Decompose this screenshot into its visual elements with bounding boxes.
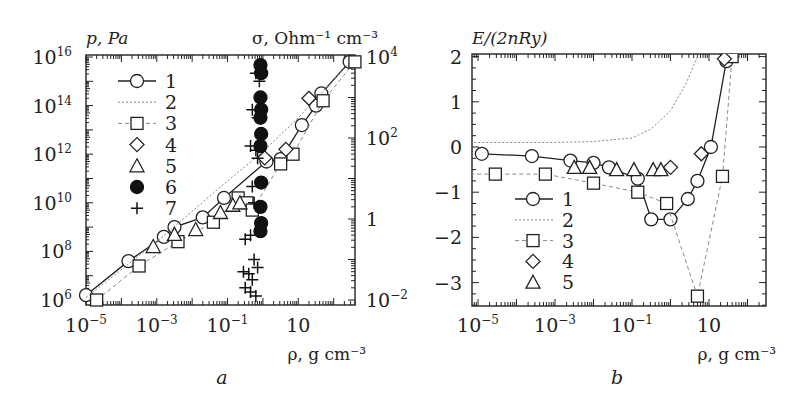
- y-axis-title: E/(2nRy): [471, 28, 547, 48]
- circle-marker: [681, 192, 694, 205]
- square-marker: [588, 177, 600, 189]
- x-tick-label: 10−1: [611, 313, 653, 336]
- y-right-tick-label: 104: [366, 45, 398, 68]
- square-marker: [661, 198, 673, 210]
- x-tick-label-base: 10: [65, 314, 89, 336]
- y-tick-label: 2: [450, 46, 462, 68]
- legend-marker: [526, 254, 540, 268]
- filled-circle-marker: [254, 91, 267, 104]
- y-left-tick-label: 108: [40, 239, 72, 262]
- legend-label: 4: [165, 134, 177, 156]
- legend-item: 5: [130, 155, 177, 177]
- legend-marker: [527, 193, 540, 206]
- y-left-tick-label: 1010: [33, 191, 72, 214]
- legend-item: 5: [526, 271, 574, 293]
- x-tick-label-exp: −1: [635, 313, 653, 327]
- square-marker: [539, 168, 551, 180]
- y-right-tick-label-exp: −2: [390, 288, 408, 302]
- y-left-tick-label-base: 10: [33, 143, 57, 165]
- square-marker: [91, 294, 103, 306]
- legend-item: 3: [515, 230, 574, 252]
- circle-marker: [475, 147, 488, 160]
- y-left-tick-label: 1012: [33, 142, 72, 165]
- square-marker: [691, 290, 703, 302]
- y-tick-label: −1: [434, 181, 462, 203]
- legend-marker: [131, 75, 144, 88]
- legend-label: 7: [165, 197, 177, 219]
- x-tick-label-base: 10: [286, 314, 310, 336]
- x-tick-label-exp: −3: [160, 313, 178, 327]
- legend-label: 6: [165, 176, 177, 198]
- x-tick-label-base: 10: [457, 314, 481, 336]
- legend-marker: [131, 202, 143, 214]
- y-right-tick-label: 102: [366, 126, 398, 149]
- y-tick-label: −2: [434, 226, 462, 248]
- legend-label: 1: [562, 188, 574, 210]
- y-right-tick-label-base: 10: [366, 127, 390, 149]
- y-left-tick-label: 1014: [33, 94, 73, 117]
- y-left-tick-label-exp: 16: [57, 45, 72, 59]
- series-5: [567, 160, 668, 175]
- y-left-tick-label-exp: 12: [57, 142, 72, 156]
- square-marker: [632, 186, 644, 198]
- y-left-tick-label: 106: [40, 288, 72, 311]
- y-left-tick-label-base: 10: [33, 95, 57, 117]
- y-right-tick-label: 1: [366, 208, 378, 230]
- series-5: [146, 196, 247, 253]
- x-axis-title: ρ, g cm⁻³: [287, 344, 366, 364]
- legend-item: 2: [118, 91, 177, 113]
- x-tick-label: 10−1: [207, 313, 249, 336]
- x-tick-label: 10−3: [136, 313, 178, 336]
- x-tick-label-base: 10: [611, 314, 635, 336]
- y-left-title: p, Pa: [86, 28, 129, 48]
- square-marker: [349, 56, 361, 68]
- legend-label: 4: [562, 250, 574, 272]
- legend-marker: [131, 181, 144, 194]
- x-tick-label-base: 10: [534, 314, 558, 336]
- legend-marker: [527, 235, 539, 247]
- x-tick-label: 10−5: [457, 313, 499, 336]
- x-tick-label-base: 10: [207, 314, 231, 336]
- legend-label: 5: [165, 155, 177, 177]
- y-left-tick-label-base: 10: [40, 240, 64, 262]
- legend: 12345: [515, 188, 574, 293]
- x-tick-label: 10: [697, 314, 721, 336]
- series-1: [80, 55, 357, 301]
- circle-marker: [525, 150, 538, 163]
- panel-b-chart: 10−510−310−110210−1−2−3E/(2nRy)ρ, g cm⁻³…: [434, 11, 776, 388]
- y-right-tick-label-base: 1: [366, 208, 378, 230]
- y-left-tick-label-base: 10: [40, 289, 64, 311]
- y-left-tick-label-exp: 14: [57, 94, 73, 108]
- square-marker: [275, 158, 287, 170]
- legend-item: 4: [130, 134, 177, 156]
- circle-marker: [295, 119, 308, 132]
- y-left-tick-label-exp: 6: [64, 288, 72, 302]
- legend-item: 1: [118, 70, 177, 92]
- x-axis-title: ρ, g cm⁻³: [697, 344, 776, 364]
- circle-marker: [645, 213, 658, 226]
- legend-marker: [130, 138, 144, 152]
- legend: 1234567: [118, 70, 177, 219]
- legend-label: 2: [165, 91, 177, 113]
- x-tick-label-base: 10: [136, 314, 160, 336]
- x-tick-label: 10−5: [65, 313, 107, 336]
- legend-marker: [526, 275, 540, 288]
- y-left-tick-label-exp: 8: [64, 239, 72, 253]
- y-left-tick-label-base: 10: [33, 192, 57, 214]
- y-right-title: σ, Ohm⁻¹ cm⁻³: [252, 28, 378, 48]
- figure: 10−510−310−11010161014101210101081061041…: [0, 0, 811, 399]
- filled-circle-marker: [255, 127, 268, 140]
- y-tick-label: 0: [450, 136, 462, 158]
- plus-marker: [237, 266, 249, 278]
- legend-label: 3: [165, 112, 177, 134]
- legend-label: 1: [165, 70, 177, 92]
- circle-marker: [691, 174, 704, 187]
- legend-item: 6: [131, 176, 178, 198]
- legend-item: 4: [526, 250, 574, 272]
- panel-label: a: [216, 366, 227, 388]
- y-right-tick-label-base: 10: [366, 289, 390, 311]
- legend-item: 3: [118, 112, 177, 134]
- legend-label: 2: [562, 209, 574, 231]
- y-left-tick-label-base: 10: [33, 46, 57, 68]
- legend-marker: [130, 159, 144, 172]
